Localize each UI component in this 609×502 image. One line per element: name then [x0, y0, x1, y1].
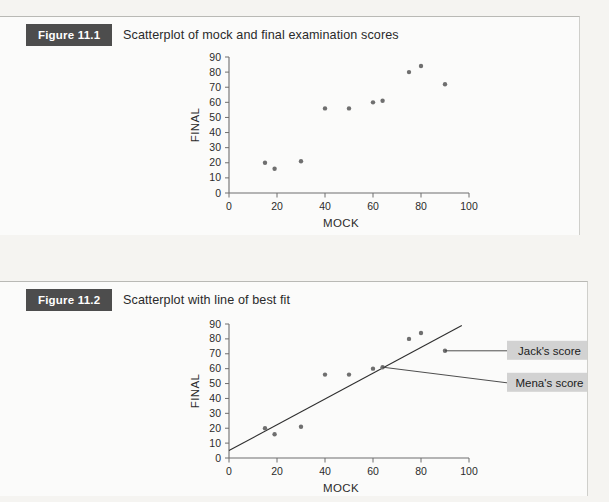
fig2-x-axis-title: MOCK: [323, 482, 359, 494]
fig1-y-tick-label: 60: [209, 96, 221, 108]
fig2-data-point: [419, 331, 423, 335]
figure-11-2-chart: 0102030405060708090020406080100MOCKFINAL…: [0, 310, 587, 496]
fig2-y-tick-label: 80: [209, 332, 221, 344]
fig2-data-point: [347, 372, 351, 376]
fig1-y-tick-label: 0: [215, 187, 221, 199]
fig1-data-point: [380, 99, 384, 103]
fig1-data-point: [323, 106, 327, 110]
fig2-y-tick-label: 50: [209, 377, 221, 389]
figure-11-1-chart: 0102030405060708090020406080100MOCKFINAL: [0, 45, 579, 235]
fig2-data-point: [263, 426, 267, 430]
fig1-x-tick-label: 60: [367, 200, 379, 212]
fig1-y-tick-label: 20: [209, 156, 221, 168]
figure-11-2-title: Scatterplot with line of best fit: [123, 293, 290, 307]
fig1-data-point: [407, 70, 411, 74]
fig2-y-tick-label: 60: [209, 362, 221, 374]
fig1-data-point: [443, 82, 447, 86]
fig2-y-tick-label: 20: [209, 422, 221, 434]
fig2-x-tick-label: 100: [460, 465, 478, 477]
fig1-data-point: [347, 106, 351, 110]
fig1-data-point: [419, 64, 423, 68]
mena-score-callout-label: Mena's score: [515, 377, 583, 389]
fig1-y-tick-label: 70: [209, 81, 221, 93]
fig1-x-tick-label: 0: [226, 200, 232, 212]
figure-11-1-caption: Figure 11.1 Scatterplot of mock and fina…: [0, 17, 579, 47]
fig2-y-tick-label: 40: [209, 392, 221, 404]
fig2-y-tick-label: 70: [209, 347, 221, 359]
fig1-y-tick-label: 90: [209, 51, 221, 63]
fig2-x-tick-label: 40: [319, 465, 331, 477]
mena-score-leader-line: [383, 367, 507, 383]
fig1-x-tick-label: 100: [460, 200, 478, 212]
fig1-data-point: [299, 159, 303, 163]
fig1-y-tick-label: 50: [209, 111, 221, 123]
fig2-y-tick-label: 0: [215, 452, 221, 464]
fig2-y-tick-label: 10: [209, 437, 221, 449]
fig2-data-point: [272, 432, 276, 436]
fig1-x-tick-label: 20: [271, 200, 283, 212]
fig2-x-tick-label: 20: [271, 465, 283, 477]
fig1-y-tick-label: 40: [209, 126, 221, 138]
fig1-y-tick-label: 10: [209, 171, 221, 183]
figure-11-2-tag: Figure 11.2: [26, 289, 112, 311]
fig1-x-axis-title: MOCK: [323, 217, 359, 229]
figure-11-2-block: Figure 11.2 Scatterplot with line of bes…: [0, 281, 588, 496]
fig1-data-point: [263, 161, 267, 165]
fig2-data-point: [323, 372, 327, 376]
fig2-x-tick-label: 80: [415, 465, 427, 477]
figure-11-1-title: Scatterplot of mock and final examinatio…: [123, 28, 399, 42]
fig1-y-tick-label: 80: [209, 66, 221, 78]
fig2-y-tick-label: 90: [209, 318, 221, 330]
fig2-y-axis-title: FINAL: [189, 374, 201, 409]
fig2-x-tick-label: 0: [226, 465, 232, 477]
fig1-x-tick-label: 40: [319, 200, 331, 212]
fig1-y-tick-label: 30: [209, 141, 221, 153]
figure-11-1-block: Figure 11.1 Scatterplot of mock and fina…: [0, 16, 580, 235]
figure-11-1-tag: Figure 11.1: [26, 24, 112, 46]
fig2-data-point: [299, 425, 303, 429]
fig2-line-of-best-fit: [229, 325, 462, 450]
fig2-data-point: [371, 366, 375, 370]
figure-11-2-caption: Figure 11.2 Scatterplot with line of bes…: [0, 282, 587, 312]
fig1-data-point: [371, 100, 375, 104]
fig1-y-axis-title: FINAL: [189, 108, 201, 143]
fig2-y-tick-label: 30: [209, 407, 221, 419]
fig2-x-tick-label: 60: [367, 465, 379, 477]
fig1-x-tick-label: 80: [415, 200, 427, 212]
jack-score-callout-label: Jack's score: [518, 345, 581, 357]
fig2-data-point: [407, 337, 411, 341]
fig1-data-point: [272, 167, 276, 171]
